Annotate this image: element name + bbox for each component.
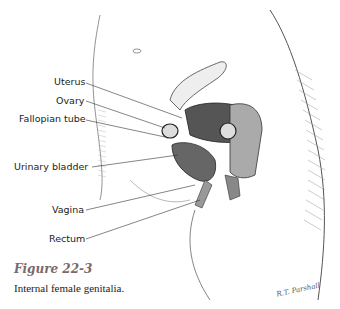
leader-vagina — [86, 185, 195, 210]
ovary-left — [162, 124, 178, 138]
label-fallopian-tube: Fallopian tube — [19, 114, 86, 124]
vagina — [195, 180, 212, 208]
leader-uterus — [86, 83, 182, 118]
thigh-outline — [190, 210, 210, 300]
figure-title: Figure 22-3 — [14, 262, 92, 276]
label-urinary-bladder: Urinary bladder — [14, 162, 88, 172]
rectum — [225, 175, 240, 200]
torso-outline-left — [93, 15, 102, 200]
leader-ovary — [86, 101, 165, 128]
label-rectum: Rectum — [49, 234, 85, 244]
ovary-right — [220, 123, 236, 139]
figure-caption: Internal female genitalia. — [14, 282, 124, 294]
label-vagina: Vagina — [52, 205, 84, 215]
hatching-right — [295, 70, 325, 230]
urinary-bladder — [172, 143, 216, 182]
label-ovary: Ovary — [56, 96, 84, 106]
uterine-wall — [230, 104, 262, 178]
navel — [133, 49, 141, 53]
groin-outline — [130, 180, 190, 202]
label-uterus: Uterus — [54, 77, 85, 87]
